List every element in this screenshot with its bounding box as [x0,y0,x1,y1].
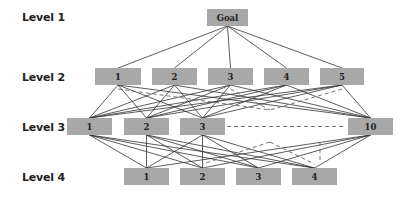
connector-line [342,85,371,118]
level3-node-2: 2 [124,118,169,135]
level4-node-3: 3 [236,168,281,185]
goal-node: Goal [207,9,248,26]
level2-node-1: 1 [95,68,141,85]
connector-line [228,26,231,68]
level2-node-5-label: 5 [339,72,345,82]
level4-node-1: 1 [124,168,169,185]
level2-node-4-label: 4 [284,72,290,82]
level3-node-3-label: 3 [200,122,206,132]
connector-line [175,26,228,68]
connector-line [259,135,371,168]
connector-line [315,135,371,168]
goal-node-label: Goal [217,13,239,23]
level2-node-1-label: 1 [115,72,121,82]
connector-line [203,135,371,168]
connector-line [228,26,287,68]
level2-node-2: 2 [152,68,197,85]
level2-node-5: 5 [320,68,364,85]
level4-node-2-label: 2 [200,172,206,182]
connector-line [203,85,343,118]
level4-node-1-label: 1 [144,172,150,182]
level3-node-1: 1 [67,118,112,135]
connector-line [147,85,343,118]
connector-line [118,26,228,68]
connector-line [90,135,203,168]
connector-line [228,26,343,68]
level4-node-4-label: 4 [312,172,318,182]
connector-lines [90,26,371,168]
hierarchy-diagram: Goal12345123101234 [0,0,412,199]
connector-line [147,135,371,168]
level3-node-2-label: 2 [144,122,150,132]
connector-line [90,135,147,168]
level4-node-4: 4 [292,168,337,185]
level3-node-10: 10 [348,118,393,135]
node-boxes: Goal12345123101234 [67,9,393,185]
level3-node-1-label: 1 [87,122,93,132]
level4-node-2: 2 [180,168,225,185]
connector-line [90,85,287,118]
level4-node-3-label: 3 [256,172,262,182]
level3-node-3: 3 [180,118,225,135]
connector-line [90,85,119,118]
connector-line [203,135,259,168]
level2-node-3: 3 [208,68,253,85]
level2-node-3-label: 3 [228,72,234,82]
level2-node-2-label: 2 [172,72,178,82]
level2-node-4: 4 [264,68,309,85]
level3-node-10-label: 10 [365,122,377,132]
